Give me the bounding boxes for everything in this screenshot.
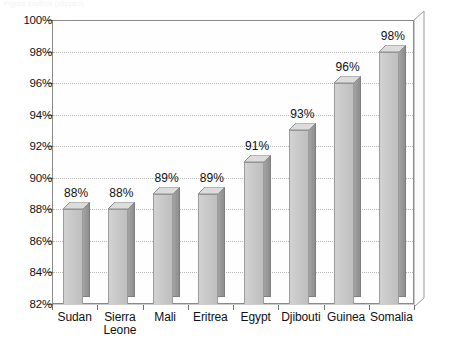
y-axis-tick-label: 94% [4,109,52,121]
x-axis-category-label: Somalia [365,311,418,324]
gridline [53,52,413,53]
bar-value-label: 93% [281,107,324,121]
bar-side-face [128,202,135,297]
bar-front-face [108,209,128,304]
y-axis-tick-label: 84% [4,266,52,278]
y-axis-tick-label: 82% [4,298,52,310]
y-axis-tick-label: 88% [4,203,52,215]
bar-value-label: 88% [100,186,143,200]
bar-side-face [173,187,180,297]
bar-side-face [399,45,406,297]
bar-value-label: 89% [190,171,233,185]
bar-column [334,76,361,304]
bar-side-face [264,155,271,297]
y-axis-tick-label: 96% [4,77,52,89]
bar-front-face [198,194,218,304]
x-axis-tick-mark [143,305,144,310]
bar-value-label: 98% [371,29,414,43]
bar-side-face [83,202,90,297]
x-axis-tick-mark [414,305,415,310]
bar-front-face [153,194,173,304]
chart-container: Figure caption (clipped) 82%84%86%88%90%… [0,0,450,355]
y-axis-tick-label: 98% [4,46,52,58]
bar-side-face [218,187,225,297]
bar-column [108,202,135,304]
y-axis: 82%84%86%88%90%92%94%96%98%100% [0,0,52,355]
bar-column [153,187,180,304]
bar-side-face [309,123,316,297]
x-axis-tick-mark [188,305,189,310]
right-wall-3d-shading [414,8,426,308]
bar-front-face [289,130,309,304]
bar-value-label: 89% [145,171,188,185]
bar-side-face [354,76,361,297]
y-axis-tick-label: 92% [4,140,52,152]
bar-column [244,155,271,304]
bar-column [198,187,225,304]
bar-value-label: 91% [236,139,279,153]
x-axis-tick-mark [324,305,325,310]
x-axis-tick-mark [52,305,53,310]
y-axis-tick-label: 90% [4,172,52,184]
bar-front-face [379,52,399,304]
bar-value-label: 96% [326,60,369,74]
x-axis-tick-mark [97,305,98,310]
bar-column [289,123,316,304]
bar-front-face [244,162,264,304]
bar-value-label: 88% [55,186,98,200]
bar-front-face [63,209,83,304]
x-axis-tick-mark [278,305,279,310]
bar-front-face [334,83,354,304]
bar-column [63,202,90,304]
y-axis-tick-label: 86% [4,235,52,247]
bar-column [379,45,406,304]
x-axis-tick-mark [233,305,234,310]
y-axis-tick-label: 100% [4,14,52,26]
